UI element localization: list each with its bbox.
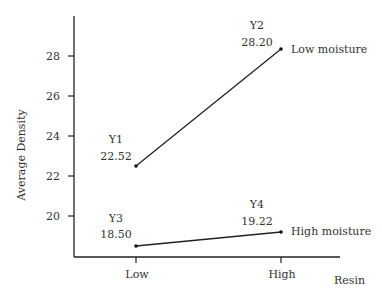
series-low-moisture: Low moisture [134,43,367,168]
series-label-high-moisture: High moisture [291,225,371,238]
data-point-y1 [134,164,138,168]
x-tick-label-low: Low [125,268,149,281]
annotation-y2-label: Y2 [249,19,264,32]
y-tick-label: 28 [46,50,60,63]
y-tick-label: 26 [46,90,60,103]
point-annotations: Y1 22.52 Y2 28.20 Y3 18.50 Y4 19.22 [100,19,273,241]
x-axis-label: Resin [334,274,365,287]
annotation-y4-label: Y4 [249,198,264,211]
y-axis-label: Average Density [15,109,28,202]
annotation-y3-value: 18.50 [100,228,132,241]
data-point-y2 [279,47,283,51]
y-ticks: 28 26 24 22 20 [46,50,74,223]
annotation-y2-value: 28.20 [241,36,273,49]
x-tick-label-high: High [268,268,295,281]
series-high-moisture: High moisture [134,225,371,248]
data-point-y3 [134,244,138,248]
interaction-plot: 28 26 24 22 20 Low High Resin Average De… [0,0,382,299]
series-label-low-moisture: Low moisture [291,43,367,56]
x-ticks: Low High [125,257,295,281]
y-tick-label: 22 [46,170,60,183]
y-tick-label: 20 [46,210,60,223]
y-tick-label: 24 [46,130,60,143]
annotation-y4-value: 19.22 [241,215,273,228]
data-point-y4 [279,230,283,234]
annotation-y1-value: 22.52 [100,150,132,163]
annotation-y1-label: Y1 [108,133,123,146]
annotation-y3-label: Y3 [108,212,123,225]
